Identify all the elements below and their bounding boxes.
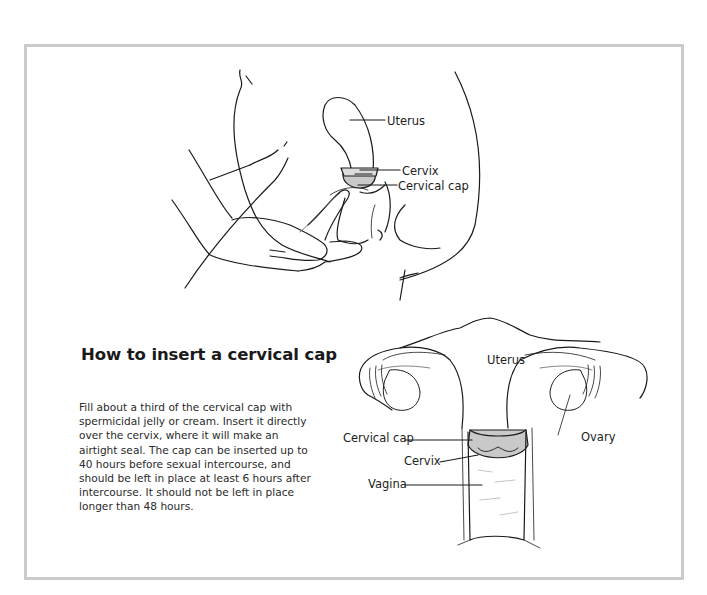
label-front-vagina: Vagina: [368, 479, 407, 491]
front-view-illustration: [0, 0, 707, 595]
label-front-cervix: Cervix: [404, 456, 441, 468]
label-front-uterus: Uterus: [487, 355, 525, 367]
label-front-ovary: Ovary: [581, 432, 615, 444]
label-front-cervical-cap: Cervical cap: [343, 433, 414, 445]
